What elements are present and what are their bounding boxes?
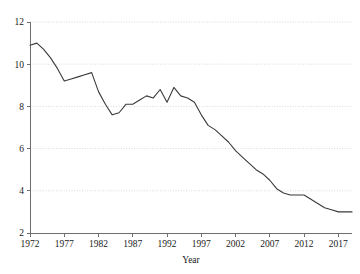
y-tick-label-4: 4 — [19, 186, 24, 196]
x-axis-title: Year — [182, 255, 200, 265]
x-tick-label-1972: 1972 — [21, 239, 40, 249]
x-tick-label-1987: 1987 — [123, 239, 142, 249]
x-tick-label-1997: 1997 — [192, 239, 211, 249]
data-series-line — [30, 43, 352, 212]
x-tick-label-1982: 1982 — [89, 239, 108, 249]
x-tick-label-1977: 1977 — [55, 239, 74, 249]
x-tick-label-2002: 2002 — [226, 239, 245, 249]
y-tick-label-8: 8 — [19, 102, 24, 112]
tick-marks-group — [27, 22, 338, 237]
x-tick-label-2017: 2017 — [329, 239, 348, 249]
chart-plot-area: 24681012 1972197719821987199219972002200… — [0, 0, 360, 274]
y-tick-label-6: 6 — [19, 144, 24, 154]
y-tick-label-10: 10 — [15, 60, 25, 70]
x-tick-label-2007: 2007 — [260, 239, 279, 249]
gridlines-group — [30, 22, 352, 191]
x-tick-label-1992: 1992 — [158, 239, 177, 249]
y-tick-label-12: 12 — [15, 17, 25, 27]
y-tick-labels-group: 24681012 — [15, 17, 25, 238]
x-tick-labels-group: 1972197719821987199219972002200720122017 — [21, 239, 349, 249]
y-tick-label-2: 2 — [19, 228, 24, 238]
x-tick-label-2012: 2012 — [295, 239, 314, 249]
line-chart: 24681012 1972197719821987199219972002200… — [0, 0, 360, 274]
